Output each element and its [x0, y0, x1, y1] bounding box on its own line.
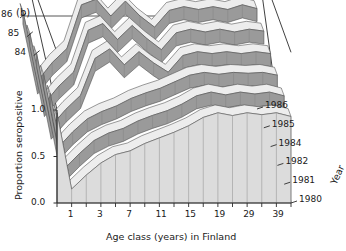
panel-label: (b) — [16, 8, 30, 18]
x-tick-3: 11 — [155, 210, 166, 219]
x-tick-0: 1 — [68, 210, 74, 219]
y-tick-2: 1.0 — [31, 105, 45, 114]
y-axis-title: Proportion seropositive — [14, 90, 24, 200]
x-tick-6: 29 — [243, 210, 254, 219]
z-upper-tick-86: 86 — [1, 10, 12, 19]
x-tick-4: 15 — [185, 210, 196, 219]
z-tick-1984: 1984 — [279, 139, 302, 148]
y-tick-0: 0.0 — [31, 198, 45, 207]
z-upper-tick-85: 85 — [8, 29, 19, 38]
z-tick-1986: 1986 — [265, 101, 288, 110]
x-tick-5: 19 — [214, 210, 225, 219]
x-axis-title: Age class (years) in Finland — [106, 232, 236, 242]
y-tick-1: 0.5 — [31, 152, 45, 161]
x-tick-7: 39 — [272, 210, 283, 219]
x-tick-1: 3 — [97, 210, 103, 219]
z-tick-1980: 1980 — [299, 195, 322, 204]
x-tick-2: 7 — [126, 210, 132, 219]
z-tick-1982: 1982 — [285, 157, 308, 166]
z-tick-1985: 1985 — [272, 120, 295, 129]
z-upper-tick-84: 84 — [15, 48, 26, 57]
z-tick-1981: 1981 — [292, 176, 315, 185]
